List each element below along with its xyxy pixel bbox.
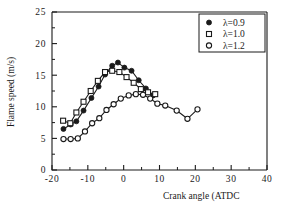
y-axis-tick-labels: 0510152025 <box>35 7 46 175</box>
data-point-marker <box>138 87 143 92</box>
legend-marker-icon <box>206 43 211 48</box>
data-point-marker <box>95 78 100 83</box>
x-tick-label: -20 <box>45 174 59 184</box>
data-point-marker <box>122 65 127 70</box>
data-point-marker <box>104 107 109 112</box>
data-point-marker <box>129 68 134 73</box>
data-point-marker <box>96 84 101 89</box>
data-point-marker <box>174 108 179 113</box>
data-point-marker <box>126 93 131 98</box>
x-axis-tick-labels: -20-10010203040 <box>45 174 273 184</box>
data-series-group <box>61 60 200 142</box>
legend-marker-icon <box>207 32 212 37</box>
x-axis-ticks <box>52 165 267 170</box>
y-tick-label: 5 <box>41 134 46 144</box>
data-point-marker <box>133 92 138 97</box>
legend-marker-icon <box>207 20 212 25</box>
data-point-marker <box>117 70 122 75</box>
x-tick-label: 30 <box>226 174 237 184</box>
y-tick-label: 10 <box>35 102 46 112</box>
legend: λ=0.9λ=1.0λ=1.2 <box>199 14 265 52</box>
x-tick-label: 20 <box>190 174 201 184</box>
data-point-marker <box>110 68 115 73</box>
y-tick-label: 20 <box>35 39 46 49</box>
data-point-marker <box>185 116 190 121</box>
legend-items: λ=0.9λ=1.0λ=1.2 <box>206 18 245 51</box>
data-point-marker <box>81 108 86 113</box>
data-point-marker <box>74 119 79 124</box>
y-tick-label: 15 <box>35 71 46 81</box>
legend-item-2: λ=1.0 <box>207 29 246 39</box>
legend-item-3: λ=1.2 <box>206 41 245 51</box>
data-point-marker <box>118 96 123 101</box>
data-point-marker <box>61 136 66 141</box>
data-point-marker <box>68 121 73 126</box>
data-point-marker <box>195 107 200 112</box>
chart-canvas: -20-10010203040 0510152025 Crank angle (… <box>0 0 286 208</box>
data-point-marker <box>89 95 94 100</box>
data-point-marker <box>82 129 87 134</box>
data-point-marker <box>153 92 158 97</box>
data-point-marker <box>61 118 66 123</box>
flame-speed-chart-figure: -20-10010203040 0510152025 Crank angle (… <box>0 0 286 208</box>
data-point-marker <box>115 60 120 65</box>
data-point-marker <box>97 116 102 121</box>
data-point-marker <box>131 80 136 85</box>
data-point-marker <box>81 99 86 104</box>
y-axis-ticks <box>52 12 57 170</box>
data-point-marker <box>103 70 108 75</box>
data-point-marker <box>75 136 80 141</box>
legend-item-label: λ=1.0 <box>223 29 245 39</box>
data-point-marker <box>124 75 129 80</box>
legend-item-label: λ=1.2 <box>223 41 245 51</box>
data-point-marker <box>136 78 141 83</box>
x-axis-label: Crank angle (ATDC <box>163 191 240 202</box>
data-point-marker <box>88 89 93 94</box>
data-point-marker <box>110 63 115 68</box>
data-point-marker <box>90 121 95 126</box>
x-tick-label: -10 <box>81 174 95 184</box>
data-point-marker <box>74 110 79 115</box>
x-tick-label: 40 <box>262 174 273 184</box>
data-point-marker <box>68 136 73 141</box>
data-point-marker <box>146 90 151 95</box>
x-tick-label: 10 <box>154 174 165 184</box>
data-point-marker <box>111 102 116 107</box>
x-tick-label: 0 <box>121 174 126 184</box>
data-point-marker <box>163 103 168 108</box>
data-point-marker <box>61 126 66 131</box>
data-point-marker <box>148 96 153 101</box>
data-point-marker <box>140 92 145 97</box>
y-tick-label: 0 <box>41 165 46 175</box>
legend-item-1: λ=0.9 <box>207 18 246 28</box>
legend-item-label: λ=0.9 <box>223 18 245 28</box>
y-axis-label: Flame speed (m/s) <box>6 57 17 127</box>
data-point-marker <box>155 101 160 106</box>
y-tick-label: 25 <box>35 7 46 17</box>
